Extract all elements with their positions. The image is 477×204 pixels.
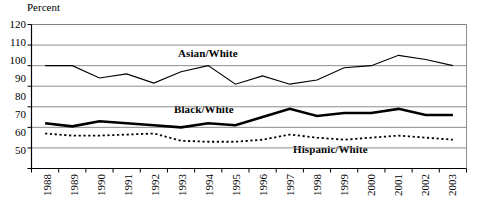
series-line-asian-white	[45, 55, 453, 84]
plot-area	[0, 0, 477, 204]
series-line-black-white	[45, 109, 453, 128]
series-line-hispanic-white	[45, 134, 453, 142]
axis-lines	[32, 25, 467, 170]
gridlines	[32, 25, 467, 148]
chart-container: Percent 120 110 100 90 80 70 60 50 1988 …	[0, 0, 477, 204]
x-axis-ticks	[32, 169, 467, 173]
